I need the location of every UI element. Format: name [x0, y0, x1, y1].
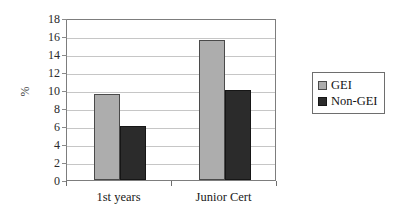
legend-item-non-gei: Non-GEI — [318, 93, 379, 109]
bar-group-container — [67, 20, 275, 180]
y-tick-mark — [62, 109, 67, 110]
bar-gei-junior-cert — [199, 40, 225, 180]
y-tick-label: 6 — [32, 121, 60, 133]
bar-gei-1st-years — [94, 94, 120, 180]
y-axis-tick-labels: 181614121086420 — [32, 0, 60, 213]
y-tick-mark — [62, 91, 67, 92]
x-tick-mark — [66, 181, 67, 186]
y-tick-label: 18 — [32, 13, 60, 25]
y-tick-mark — [62, 55, 67, 56]
x-tick-mark — [276, 181, 277, 186]
plot-area — [66, 19, 276, 181]
legend-swatch-gei-icon — [318, 81, 327, 90]
chart-legend: GEI Non-GEI — [312, 72, 385, 114]
legend-item-gei: GEI — [318, 77, 379, 93]
x-axis-category-label: Junior Cert — [171, 190, 276, 204]
y-tick-label: 14 — [32, 49, 60, 61]
x-tick-mark — [171, 181, 172, 186]
y-tick-mark — [62, 19, 67, 20]
y-axis-label: % — [18, 77, 33, 107]
y-tick-mark — [62, 145, 67, 146]
y-tick-mark — [62, 127, 67, 128]
y-tick-label: 10 — [32, 85, 60, 97]
y-tick-label: 8 — [32, 103, 60, 115]
legend-label-gei: GEI — [331, 78, 352, 92]
legend-swatch-non-gei-icon — [318, 97, 327, 106]
bar-non-gei-1st-years — [120, 126, 146, 180]
y-tick-label: 4 — [32, 139, 60, 151]
x-axis-category-label: 1st years — [66, 190, 171, 204]
y-tick-label: 16 — [32, 31, 60, 43]
y-tick-label: 2 — [32, 157, 60, 169]
y-tick-label: 12 — [32, 67, 60, 79]
legend-label-non-gei: Non-GEI — [331, 94, 378, 108]
bar-chart-figure: % 181614121086420 GEI Non-GEI 1st yearsJ… — [0, 0, 408, 213]
bar-non-gei-junior-cert — [225, 90, 251, 180]
y-tick-mark — [62, 73, 67, 74]
y-tick-label: 0 — [32, 175, 60, 187]
y-tick-mark — [62, 163, 67, 164]
y-tick-mark — [62, 37, 67, 38]
